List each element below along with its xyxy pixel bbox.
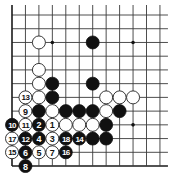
move-number: 5 (36, 148, 41, 158)
numbered-stone-black: 4 (32, 132, 45, 145)
stone-white (100, 91, 113, 104)
white-stone-icon (100, 105, 113, 118)
black-stone-icon (46, 77, 59, 90)
numbered-stone-black: 18 (59, 132, 72, 145)
stone-black (100, 118, 113, 131)
black-stone-icon (86, 132, 99, 145)
black-stone-icon (100, 132, 113, 145)
move-number: 1 (50, 120, 55, 130)
numbered-stone-white: 11 (19, 118, 32, 131)
stone-white (32, 63, 45, 76)
star-point-icon (51, 41, 55, 45)
move-number: 10 (8, 121, 17, 130)
move-number: 8 (23, 162, 28, 172)
move-number: 2 (36, 120, 41, 130)
numbered-stone-white: 5 (32, 146, 45, 159)
move-number: 12 (22, 135, 31, 144)
numbered-stone-white: 15 (6, 146, 19, 159)
stone-white (32, 36, 45, 49)
black-stone-icon (46, 91, 59, 104)
black-stone-icon (86, 36, 99, 49)
white-stone-icon (100, 91, 113, 104)
white-stone-icon (113, 91, 126, 104)
star-point-icon (131, 123, 135, 127)
stone-black (86, 105, 99, 118)
black-stone-icon (59, 105, 72, 118)
white-stone-icon (32, 63, 45, 76)
stone-white (59, 118, 72, 131)
numbered-stone-black: 12 (19, 132, 32, 145)
black-stone-icon (100, 118, 113, 131)
stone-black (32, 105, 45, 118)
stone-white (73, 118, 86, 131)
move-number: 4 (36, 134, 41, 144)
numbered-stone-white: 17 (6, 132, 19, 145)
stone-black (86, 132, 99, 145)
numbered-stone-black: 6 (19, 146, 32, 159)
stone-white (127, 91, 140, 104)
black-stone-icon (86, 77, 99, 90)
black-stone-icon (32, 105, 45, 118)
stone-white (32, 91, 45, 104)
stone-black (59, 105, 72, 118)
move-number: 11 (22, 121, 30, 130)
white-stone-icon (86, 118, 99, 131)
white-stone-icon (32, 91, 45, 104)
numbered-stone-white: 1 (46, 118, 59, 131)
white-stone-icon (73, 118, 86, 131)
stone-white (100, 105, 113, 118)
star-point-icon (131, 41, 135, 45)
move-number: 7 (50, 148, 55, 158)
white-stone-icon (32, 77, 45, 90)
move-number: 14 (75, 135, 84, 144)
move-number: 16 (62, 148, 71, 157)
move-number: 17 (8, 135, 17, 144)
go-board-diagram: 139101121171243181415657168 (0, 0, 175, 186)
stone-white (32, 77, 45, 90)
numbered-stone-white: 3 (46, 132, 59, 145)
white-stone-icon (32, 36, 45, 49)
stone-black (46, 91, 59, 104)
move-number: 9 (23, 107, 28, 117)
stone-black (113, 105, 126, 118)
move-number: 3 (50, 134, 55, 144)
black-stone-icon (113, 105, 126, 118)
white-stone-icon (46, 105, 59, 118)
stone-black (86, 36, 99, 49)
stone-black (86, 77, 99, 90)
stone-white (46, 105, 59, 118)
move-number: 6 (23, 148, 28, 158)
move-number: 15 (8, 148, 17, 157)
move-number: 18 (62, 135, 71, 144)
stone-white (113, 91, 126, 104)
numbered-stone-black: 14 (73, 132, 86, 145)
stone-black (100, 132, 113, 145)
numbered-stone-black: 2 (32, 118, 45, 131)
stone-black (73, 105, 86, 118)
numbered-stone-black: 16 (59, 146, 72, 159)
white-stone-icon (127, 91, 140, 104)
move-number: 13 (22, 93, 31, 102)
numbered-stone-black: 10 (6, 118, 19, 131)
white-stone-icon (59, 118, 72, 131)
black-stone-icon (73, 105, 86, 118)
numbered-stone-white: 7 (46, 146, 59, 159)
stone-black (46, 77, 59, 90)
numbered-stone-white: 13 (19, 91, 32, 104)
numbered-stone-white: 9 (19, 105, 32, 118)
numbered-stone-black: 8 (19, 160, 32, 173)
black-stone-icon (86, 105, 99, 118)
stone-white (86, 118, 99, 131)
